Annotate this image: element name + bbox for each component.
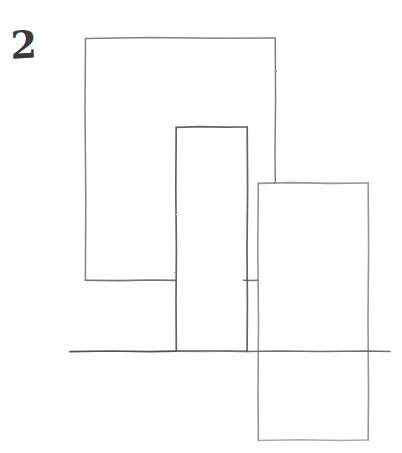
ground-line-middle-segment — [176, 351, 247, 352]
right-rect-bottom-edge — [258, 440, 368, 441]
right-rect-right-edge — [368, 183, 369, 440]
horizontal-ground-line — [70, 351, 390, 352]
right-rectangle — [258, 183, 369, 441]
right-rect-top-edge — [258, 183, 368, 184]
ground-line-right-segment — [247, 351, 390, 352]
large-rect-left-edge — [85, 39, 86, 281]
line-drawing-svg — [0, 0, 402, 453]
middle-rect-right-edge — [247, 127, 248, 351]
right-rect-left-edge — [258, 183, 259, 440]
middle-rect-left-edge — [176, 127, 177, 351]
large-rect-bottom-edge-left-segment — [85, 280, 176, 281]
large-rect-right-edge — [275, 38, 276, 184]
large-rect-top-edge — [86, 38, 276, 39]
ground-line-left-segment — [70, 351, 176, 352]
middle-tall-rectangle — [176, 127, 248, 352]
middle-rect-top-edge — [176, 127, 247, 128]
figure-canvas: 2 — [0, 0, 402, 453]
